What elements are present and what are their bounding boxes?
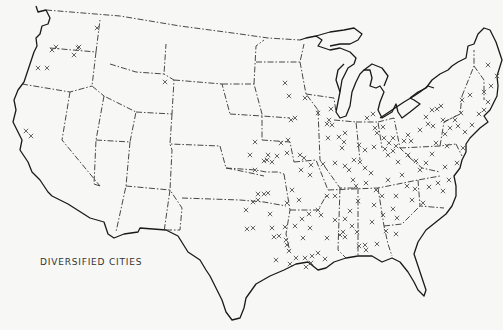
city-marker-icon	[245, 227, 249, 231]
city-marker-icon	[347, 168, 351, 172]
city-marker-icon	[293, 116, 297, 120]
city-marker-icon	[303, 256, 307, 260]
city-marker-icon	[405, 184, 409, 188]
city-marker-icon	[413, 187, 417, 191]
map-title-label: DIVERSIFIED CITIES	[40, 257, 142, 267]
city-marker-icon	[375, 131, 379, 135]
city-marker-icon	[266, 191, 270, 195]
city-marker-icon	[396, 160, 400, 164]
city-marker-icon	[363, 243, 367, 247]
city-marker-icon	[95, 26, 99, 30]
northern-border	[46, 10, 300, 40]
city-marker-icon	[453, 118, 457, 122]
city-marker-icon	[400, 173, 404, 177]
city-marker-icon	[441, 189, 445, 193]
city-marker-icon	[270, 160, 274, 164]
city-marker-icon	[394, 232, 398, 236]
city-marker-icon	[443, 165, 447, 169]
city-marker-icon	[310, 254, 314, 258]
city-marker-icon	[301, 236, 305, 240]
city-marker-icon	[303, 96, 307, 100]
city-marker-icon	[329, 107, 333, 111]
city-marker-icon	[435, 107, 439, 111]
city-marker-icon	[402, 139, 406, 143]
city-marker-icon	[431, 124, 435, 128]
city-marker-icon	[372, 203, 376, 207]
city-marker-icon	[382, 136, 386, 140]
city-marker-icon	[288, 262, 292, 266]
city-marker-icon	[333, 218, 337, 222]
city-marker-icon	[244, 208, 248, 212]
city-marker-icon	[351, 178, 355, 182]
city-marker-icon	[251, 226, 255, 230]
city-marker-icon	[371, 112, 375, 116]
city-marker-icon	[300, 217, 304, 221]
city-marker-icon	[482, 108, 486, 112]
city-marker-icon	[394, 144, 398, 148]
lake-superior-shore	[316, 28, 362, 46]
city-marker-icon	[410, 198, 414, 202]
city-marker-icon	[436, 181, 440, 185]
city-marker-icon	[325, 122, 329, 126]
city-marker-icon	[251, 200, 255, 204]
city-marker-icon	[163, 80, 167, 84]
city-marker-icon	[325, 194, 329, 198]
city-marker-icon	[290, 188, 294, 192]
city-marker-icon	[340, 146, 344, 150]
city-marker-icon	[463, 130, 467, 134]
city-marker-icon	[477, 112, 481, 116]
city-marker-icon	[460, 98, 464, 102]
city-marker-icon	[268, 212, 272, 216]
city-marker-icon	[298, 153, 302, 157]
coastline-outline	[13, 6, 502, 320]
city-marker-icon	[459, 111, 463, 115]
city-marker-icon	[253, 140, 257, 144]
city-marker-icon	[330, 123, 334, 127]
city-marker-icon	[308, 173, 312, 177]
city-marker-icon	[470, 123, 474, 127]
city-marker-icon	[319, 213, 323, 217]
city-marker-icon	[284, 238, 288, 242]
city-marker-icon	[414, 159, 418, 163]
city-marker-icon	[391, 149, 395, 153]
city-marker-icon	[489, 84, 493, 88]
city-marker-icon	[427, 185, 431, 189]
city-marker-icon	[364, 181, 368, 185]
city-marker-icon	[363, 148, 367, 152]
city-marker-icon	[391, 207, 395, 211]
city-marker-icon	[381, 213, 385, 217]
city-marker-icon	[418, 128, 422, 132]
city-marker-icon	[54, 45, 58, 49]
city-marker-icon	[277, 234, 281, 238]
city-marker-icon	[430, 108, 434, 112]
city-marker-icon	[29, 134, 33, 138]
city-marker-icon	[456, 124, 460, 128]
city-marker-icon	[274, 258, 278, 262]
city-marker-icon	[262, 192, 266, 196]
city-marker-icon	[256, 192, 260, 196]
city-marker-icon	[395, 216, 399, 220]
city-marker-icon	[302, 156, 306, 160]
lake-huron-shore	[364, 64, 388, 86]
city-marker-icon	[326, 136, 330, 140]
city-marker-icon	[316, 251, 320, 255]
city-marker-icon	[364, 248, 368, 252]
us-map	[0, 0, 503, 330]
city-marker-icon	[369, 171, 373, 175]
city-marker-icon	[426, 122, 430, 126]
city-marker-icon	[72, 53, 76, 57]
city-marker-icon	[406, 133, 410, 137]
city-marker-icon	[45, 66, 49, 70]
city-marker-icon	[421, 201, 425, 205]
city-marker-icon	[424, 161, 428, 165]
city-marker-icon	[461, 146, 465, 150]
city-marker-icon	[383, 147, 387, 151]
city-marker-icon	[343, 164, 347, 168]
city-marker-icon	[445, 144, 449, 148]
city-marker-icon	[354, 184, 358, 188]
city-marker-icon	[24, 129, 28, 133]
city-marker-icon	[439, 104, 443, 108]
city-marker-icon	[409, 139, 413, 143]
city-marker-icon	[343, 235, 347, 239]
city-marker-icon	[342, 140, 346, 144]
